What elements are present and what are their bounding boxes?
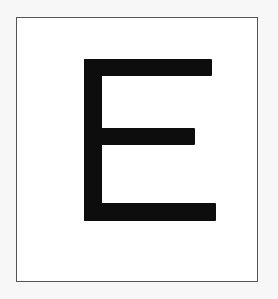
letter-e-top-bar [84,59,212,76]
letter-card: E [16,17,258,282]
letter-e-bottom-bar [84,203,216,221]
letter-e-middle-bar [84,128,195,145]
letter-label: E [17,18,18,19]
